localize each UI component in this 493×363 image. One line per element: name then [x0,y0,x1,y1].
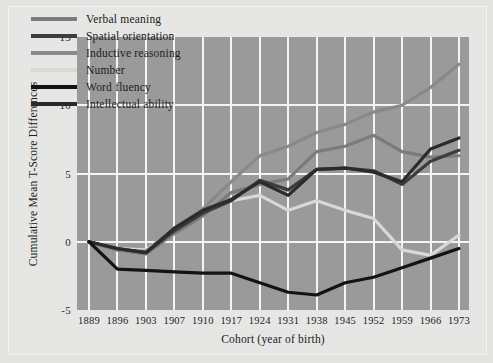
legend-item-label: Intellectual ability [86,98,174,110]
legend-color-swatch [31,68,77,72]
x-tick-label: 1910 [192,315,214,326]
legend-item-label: Word fluency [86,81,151,93]
legend-color-swatch [31,102,77,106]
x-tick-label: 1959 [391,315,413,326]
x-tick-label: 1952 [363,315,385,326]
y-tick-label: -5 [61,304,71,316]
legend-item[interactable]: Number [31,62,181,78]
x-tick-label: 1973 [448,315,470,326]
legend-item[interactable]: Intellectual ability [31,96,181,112]
legend-color-swatch [31,51,77,55]
figure-inner-panel: Cumulative Mean T-Score Differences 1510… [8,6,487,355]
legend-item[interactable]: Spatial orientation [31,28,181,44]
x-tick-label: 1903 [135,315,157,326]
legend-color-swatch [31,85,77,89]
legend-item[interactable]: Verbal meaning [31,11,181,27]
x-tick-label: 1931 [277,315,299,326]
y-tick-label: 5 [65,168,71,180]
series-line [89,195,459,255]
legend-color-swatch [31,17,77,21]
x-tick-label: 1966 [420,315,442,326]
x-tick-label: 1938 [306,315,328,326]
series-line [89,138,459,253]
x-tick-label: 1896 [107,315,129,326]
legend-item[interactable]: Inductive reasoning [31,45,181,61]
x-axis-label: Cohort (year of birth) [77,333,469,345]
legend-item-label: Spatial orientation [86,30,174,42]
figure: Cumulative Mean T-Score Differences 1510… [0,0,493,363]
legend-item[interactable]: Word fluency [31,79,181,95]
x-tick-label: 1907 [163,315,185,326]
x-tick-label: 1889 [78,315,100,326]
x-tick-label: 1924 [249,315,271,326]
legend-item-label: Inductive reasoning [86,47,181,59]
legend-item-label: Number [86,64,125,76]
legend: Verbal meaningSpatial orientationInducti… [31,11,181,112]
legend-color-swatch [31,34,77,38]
legend-item-label: Verbal meaning [86,13,161,25]
x-tick-label: 1945 [334,315,356,326]
x-tick-label: 1917 [220,315,242,326]
y-tick-label: 0 [65,236,71,248]
x-axis-label-text: Cohort (year of birth) [221,333,325,345]
series-line [89,135,459,254]
